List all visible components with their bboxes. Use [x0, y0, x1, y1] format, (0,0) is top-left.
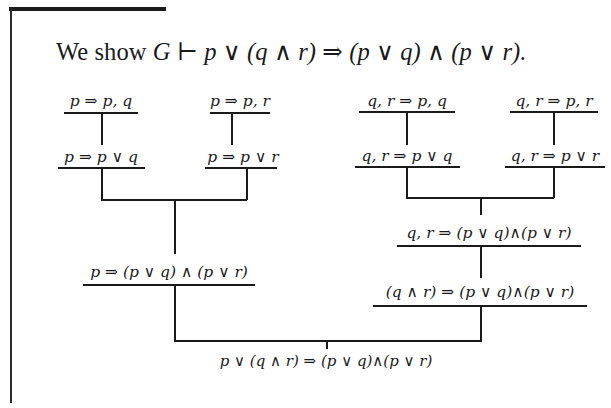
right-combined: q, r ⇒ (p ∨ q)∧(p ∨ r): [406, 224, 571, 242]
left-margin-bar: [10, 8, 12, 403]
right-leaf-2: q, r ⇒ p, r: [515, 92, 592, 110]
root-bracket: [174, 340, 482, 342]
right-conclusion: (q ∧ r) ⇒ (p ∨ q)∧(p ∨ r): [386, 283, 575, 301]
right-combined-connector: [480, 246, 482, 278]
right-step-2-connector: [553, 167, 555, 198]
right-step-1-connector: [406, 167, 408, 198]
left-leaf-1-connector: [101, 113, 103, 145]
left-leaf-2: p ⇒ p, r: [210, 92, 270, 110]
left-step-1-connector: [101, 168, 103, 200]
root-bracket-tick: [326, 340, 328, 349]
left-step-1: p ⇒ p ∨ q: [64, 148, 138, 166]
left-bracket-stem: [174, 199, 176, 254]
right-step-2: q, r ⇒ p ∨ r: [511, 147, 600, 165]
right-bracket-stem: [480, 197, 482, 215]
right-leaf-1-connector: [406, 112, 408, 145]
left-conclusion-connector: [174, 285, 176, 341]
top-rule-bar: [9, 7, 166, 11]
left-leaf-1: p ⇒ p, q: [70, 92, 132, 110]
right-leaf-2-connector: [553, 112, 555, 145]
root-sequent: p ∨ (q ∧ r) ⇒ (p ∨ q)∧(p ∨ r): [220, 352, 433, 370]
right-combined-rule: [397, 245, 581, 247]
heading-formula: G ⊢ p ∨ (q ∧ r) ⇒ (p ∨ q) ∧ (p ∨ r).: [153, 38, 527, 65]
right-leaf-1: q, r ⇒ p, q: [367, 92, 447, 110]
left-step-2-connector: [246, 168, 248, 200]
left-leaf-2-rule: [210, 112, 270, 114]
left-step-2: p ⇒ p ∨ r: [207, 148, 278, 166]
heading-prefix: We show: [56, 38, 153, 65]
right-step-2-rule: [505, 166, 605, 168]
left-leaf-2-connector: [231, 113, 233, 145]
left-step-2-rule: [205, 167, 277, 169]
left-conclusion: p ⇒ (p ∨ q) ∧ (p ∨ r): [90, 263, 248, 281]
right-conclusion-connector: [480, 306, 482, 341]
right-step-1: q, r ⇒ p ∨ q: [361, 147, 452, 165]
right-step-1-rule: [355, 166, 460, 168]
page-heading: We show G ⊢ p ∨ (q ∧ r) ⇒ (p ∨ q) ∧ (p ∨…: [56, 37, 527, 66]
left-conclusion-rule: [83, 284, 255, 286]
